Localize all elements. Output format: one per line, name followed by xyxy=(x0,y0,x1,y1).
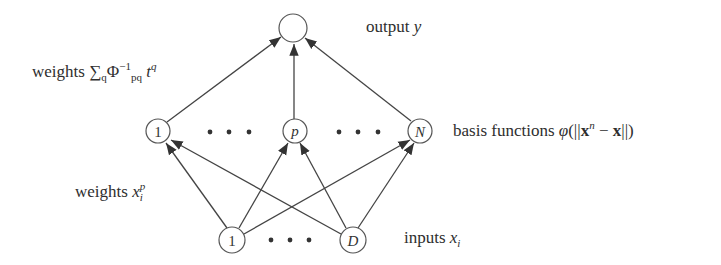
x-bold-1: x xyxy=(581,121,590,140)
basis-functions-label: basis functions φ(||xn − x||) xyxy=(453,121,634,141)
hidden-ellipsis-left xyxy=(208,130,252,135)
edges-input-to-hidden xyxy=(166,140,414,234)
phi-sub: pq xyxy=(131,71,142,83)
weights-bottom-prefix: weights xyxy=(75,182,132,201)
hidden-node-1-label: 1 xyxy=(154,124,162,140)
hidden-node-N: N xyxy=(408,119,432,143)
hidden-node-p: p xyxy=(283,119,307,143)
hidden-node-N-label: N xyxy=(414,124,426,140)
phi-sup: −1 xyxy=(119,60,131,72)
phi-symbol: φ xyxy=(559,121,568,140)
phi-matrix-symbol: Φ xyxy=(107,62,119,81)
input-ellipsis xyxy=(269,238,312,243)
sigma-symbol: ∑ xyxy=(89,62,101,81)
inputs-label-prefix: inputs xyxy=(404,228,450,247)
weights-bottom-var: x xyxy=(132,182,140,201)
edge-iD-hN xyxy=(358,143,414,228)
edge-i1-hp xyxy=(239,143,288,228)
input-node-1: 1 xyxy=(219,227,245,253)
basis-functions-prefix: basis functions xyxy=(453,121,559,140)
weights-top-prefix: weights xyxy=(32,62,89,81)
output-var: y xyxy=(414,17,422,36)
hidden-node-p-label: p xyxy=(290,123,299,139)
input-node-D-label: D xyxy=(347,233,359,249)
minus-sign: − xyxy=(595,121,613,140)
edge-hN-out xyxy=(305,38,411,121)
edge-i1-h1 xyxy=(166,143,227,228)
edges-hidden-to-output xyxy=(167,37,411,122)
edge-iD-h1 xyxy=(171,140,341,234)
output-label-text: output xyxy=(366,17,414,36)
weights-bottom-label: weights xip xyxy=(75,182,145,202)
hidden-ellipsis-right xyxy=(337,130,381,135)
norm-open: (|| xyxy=(568,121,580,140)
hidden-node-1: 1 xyxy=(146,119,170,143)
input-node-D: D xyxy=(340,227,366,253)
weights-bottom-sup: p xyxy=(140,180,146,192)
weights-top-label: weights ∑qΦ−1pq tq xyxy=(32,62,156,82)
input-node-1-label: 1 xyxy=(228,233,236,249)
edge-h1-out xyxy=(167,37,281,122)
inputs-sub: i xyxy=(457,237,460,249)
weights-bottom-sub: i xyxy=(140,191,143,203)
inputs-label: inputs xi xyxy=(404,228,460,248)
output-node xyxy=(279,14,307,42)
x-bold-2: x xyxy=(613,121,622,140)
output-label: output y xyxy=(366,17,421,37)
norm-close: ||) xyxy=(621,121,633,140)
t-sup: q xyxy=(151,60,157,72)
